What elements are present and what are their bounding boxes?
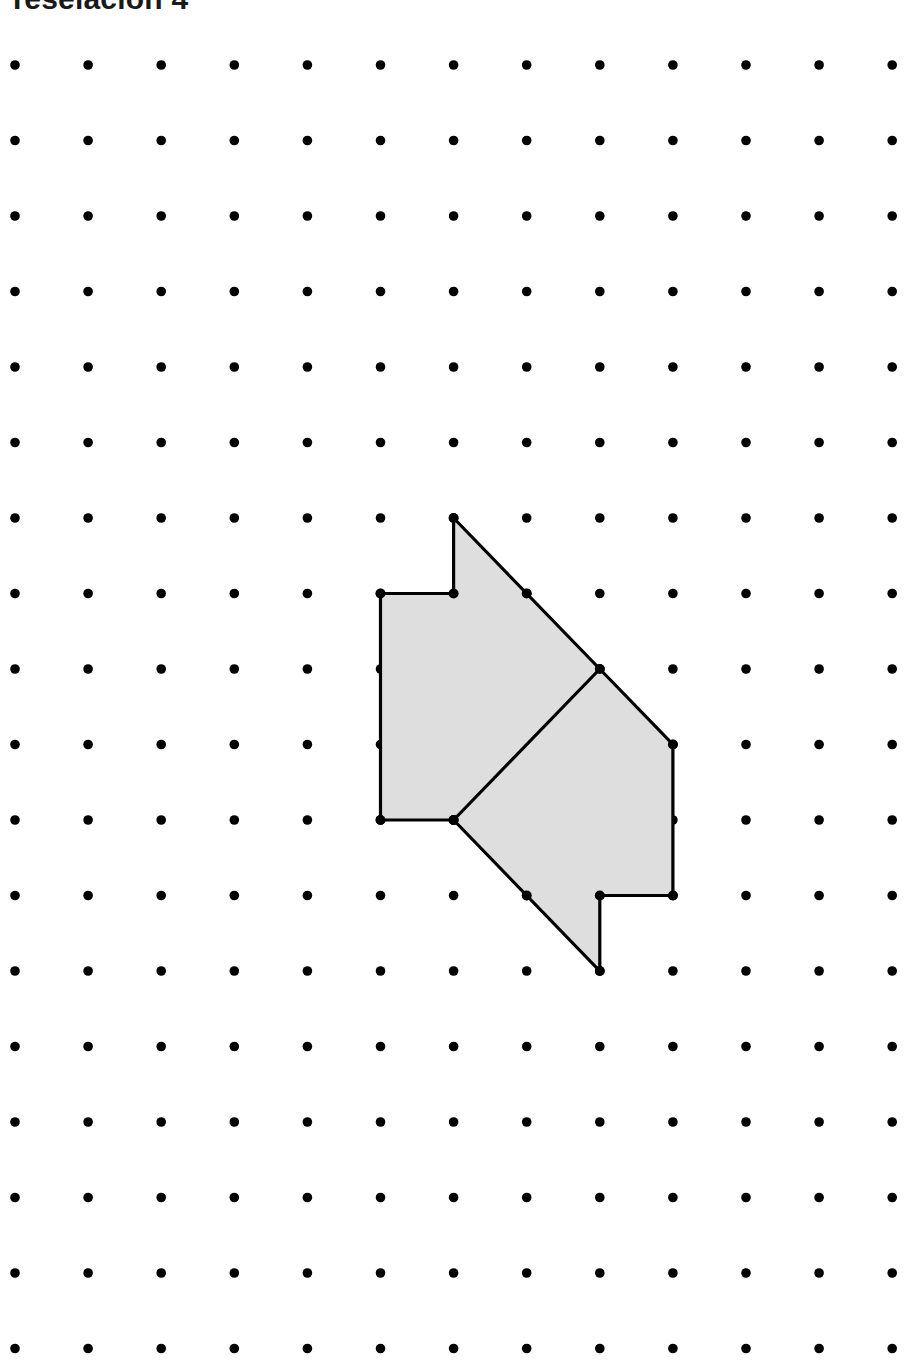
grid-dot: [303, 1268, 313, 1278]
grid-dot: [741, 1193, 751, 1203]
grid-dot: [449, 362, 459, 372]
grid-dot: [230, 815, 240, 825]
grid-dot: [522, 287, 532, 297]
grid-dot: [595, 438, 605, 448]
grid-dot: [449, 1268, 459, 1278]
grid-dot: [449, 287, 459, 297]
grid-dot: [376, 1042, 386, 1052]
grid-dot: [668, 438, 678, 448]
grid-dot: [595, 1193, 605, 1203]
grid-dot: [230, 136, 240, 146]
grid-dot: [156, 1117, 166, 1127]
grid-dot: [156, 740, 166, 750]
figure-layer: [376, 513, 678, 976]
grid-dot: [741, 362, 751, 372]
grid-dot: [449, 966, 459, 976]
grid-dot: [522, 966, 532, 976]
grid-dot: [83, 891, 93, 901]
grid-dot: [449, 136, 459, 146]
grid-dot: [10, 1042, 20, 1052]
grid-dot: [741, 287, 751, 297]
grid-dot: [230, 1042, 240, 1052]
grid-dot: [595, 287, 605, 297]
grid-dot: [887, 891, 897, 901]
grid-dot: [814, 966, 824, 976]
grid-dot: [741, 589, 751, 599]
grid-dot: [887, 1344, 897, 1354]
grid-dot: [741, 1042, 751, 1052]
grid-dot: [376, 1268, 386, 1278]
grid-dot: [595, 1042, 605, 1052]
grid-dot: [376, 513, 386, 523]
grid-dot: [83, 589, 93, 599]
grid-dot: [303, 664, 313, 674]
grid-dot: [522, 1042, 532, 1052]
grid-dot: [10, 1344, 20, 1354]
grid-dot: [449, 211, 459, 221]
grid-dot: [230, 891, 240, 901]
grid-dot: [522, 60, 532, 70]
grid-dot: [156, 513, 166, 523]
grid-dot: [668, 60, 678, 70]
grid-dot: [595, 1268, 605, 1278]
vertex-marker: [668, 891, 678, 901]
grid-dot: [814, 1268, 824, 1278]
grid-dot: [887, 362, 897, 372]
grid-dot: [741, 438, 751, 448]
grid-dot: [156, 1042, 166, 1052]
grid-dot: [303, 1042, 313, 1052]
grid-dot: [668, 513, 678, 523]
grid-dot: [10, 513, 20, 523]
grid-dot: [230, 287, 240, 297]
grid-dot: [10, 1117, 20, 1127]
grid-dot: [522, 513, 532, 523]
grid-dot: [668, 1193, 678, 1203]
grid-dot: [814, 740, 824, 750]
grid-dot: [376, 60, 386, 70]
grid-dot: [595, 589, 605, 599]
vertex-marker: [595, 664, 605, 674]
grid-dot: [814, 136, 824, 146]
grid-dot: [376, 438, 386, 448]
grid-dot: [230, 1193, 240, 1203]
grid-dot: [156, 1344, 166, 1354]
grid-dot: [741, 513, 751, 523]
grid-dot: [376, 1193, 386, 1203]
grid-dot: [741, 966, 751, 976]
grid-dot: [83, 815, 93, 825]
grid-dot: [156, 891, 166, 901]
grid-dot: [887, 1117, 897, 1127]
vertex-marker: [449, 815, 459, 825]
grid-dot: [814, 1117, 824, 1127]
grid-dot: [887, 287, 897, 297]
grid-dot: [156, 589, 166, 599]
grid-dot: [887, 1042, 897, 1052]
grid-dot: [814, 287, 824, 297]
grid-dot: [741, 1344, 751, 1354]
grid-dot: [10, 664, 20, 674]
grid-dot: [83, 966, 93, 976]
grid-dot: [83, 438, 93, 448]
grid-dot: [83, 1268, 93, 1278]
grid-dot: [741, 891, 751, 901]
vertex-marker: [449, 513, 459, 523]
grid-dot: [449, 891, 459, 901]
grid-dot: [156, 362, 166, 372]
grid-dot: [887, 513, 897, 523]
grid-dot: [156, 1268, 166, 1278]
grid-dot: [668, 1042, 678, 1052]
grid-dot: [814, 362, 824, 372]
vertex-marker: [449, 589, 459, 599]
grid-dot: [887, 60, 897, 70]
grid-dot: [303, 362, 313, 372]
grid-dot: [83, 664, 93, 674]
grid-dot: [230, 664, 240, 674]
grid-dot: [156, 966, 166, 976]
grid-dot: [522, 136, 532, 146]
worksheet-page: Teselación 4: [0, 0, 914, 1364]
grid-dot: [595, 513, 605, 523]
page-title: Teselación 4: [8, 0, 188, 14]
grid-dot: [156, 815, 166, 825]
grid-dot: [376, 362, 386, 372]
vertex-marker: [376, 815, 386, 825]
